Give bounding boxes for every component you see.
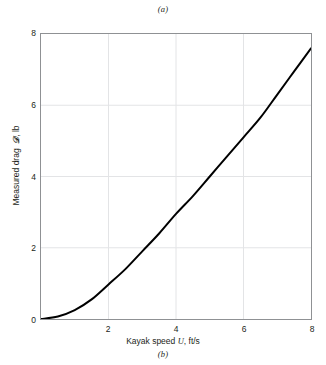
- x-axis-label-prefix: Kayak speed: [126, 336, 178, 346]
- plot-area: [40, 33, 312, 320]
- x-tick-label-2: 2: [97, 324, 119, 334]
- figure-caption-a: (a): [0, 4, 326, 14]
- y-tick-label-8: 8: [14, 28, 36, 38]
- x-axis-label: Kayak speed U, ft/s: [0, 336, 326, 346]
- x-tick-label-4: 4: [165, 324, 187, 334]
- figure-container: (a) 8 6 4 2 0 2 4 6 8 Measured drag 𝒟, l…: [0, 0, 326, 365]
- y-axis-label: Measured drag 𝒟, lb: [11, 66, 22, 266]
- drag-curve: [41, 34, 311, 319]
- y-axis-label-symbol: 𝒟: [11, 137, 21, 146]
- y-tick-label-0: 0: [14, 315, 36, 325]
- figure-caption-b: (b): [0, 349, 326, 359]
- x-tick-label-6: 6: [233, 324, 255, 334]
- y-axis-label-suffix: , lb: [11, 126, 21, 137]
- x-tick-label-8: 8: [301, 324, 323, 334]
- x-axis-label-suffix: , ft/s: [184, 336, 200, 346]
- y-axis-label-prefix: Measured drag: [11, 146, 21, 206]
